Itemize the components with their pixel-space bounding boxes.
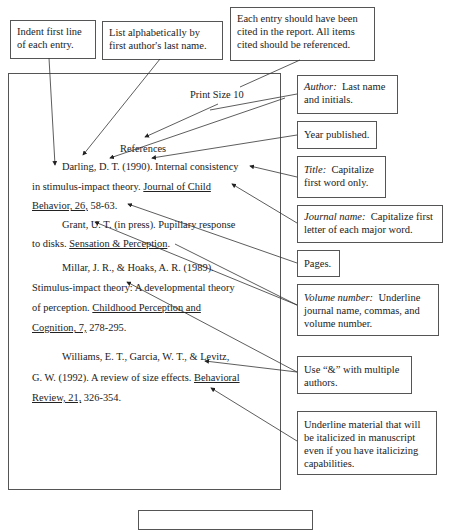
- callout-volume: Volume number: Underline journal name, c…: [297, 284, 439, 336]
- ref-line-12: Review, 21, 326-354.: [32, 392, 121, 404]
- callout-pages-text: Pages.: [304, 258, 331, 269]
- references-heading: References: [120, 143, 166, 155]
- callout-journal-label: Journal name:: [304, 211, 366, 222]
- ref-line-4: Grant, U. T. (in press). Pupillary respo…: [62, 219, 235, 231]
- ref-line-2: in stimulus-impact theory. Journal of Ch…: [32, 181, 211, 193]
- journal-volume: Cognition, 7,: [32, 322, 87, 333]
- ref-line-9: Cognition, 7, 278-295.: [32, 322, 126, 334]
- callout-cited: Each entry should have been cited in the…: [230, 7, 375, 61]
- callout-year: Year published.: [297, 121, 377, 149]
- journal-volume: Behavior, 26,: [32, 200, 88, 211]
- print-size-label: Print Size 10: [190, 89, 244, 101]
- ref-line-1: Darling, D. T. (1990). Internal consiste…: [62, 161, 239, 173]
- callout-indent-text: Indent first line of each entry.: [17, 26, 82, 50]
- ref-line-7: Stimulus-impact theory: A developmental …: [32, 282, 235, 294]
- journal-title: Journal of Child: [143, 181, 211, 192]
- callout-title: Title: Capitalize first word only.: [297, 156, 386, 198]
- callout-pages: Pages.: [297, 250, 340, 277]
- callout-author-label: Author:: [304, 81, 337, 92]
- bottom-empty-box: [138, 510, 313, 530]
- callout-ampersand-text: Use “&” with multiple authors.: [304, 364, 399, 388]
- callout-title-label: Title:: [304, 164, 326, 175]
- journal-title: Behavioral: [194, 372, 240, 383]
- journal-volume: Review, 21,: [32, 392, 81, 403]
- ref-line-10: Williams, E. T., Garcia, W. T., & Levitz…: [62, 351, 229, 363]
- callout-ampersand: Use “&” with multiple authors.: [297, 356, 412, 394]
- callout-underline-text: Underline material that will be italiciz…: [304, 419, 420, 469]
- callout-cited-text: Each entry should have been cited in the…: [237, 13, 358, 50]
- ref-line-8: of perception. Childhood Perception and: [32, 302, 201, 314]
- callout-alphabetical-text: List alphabetically by first author's la…: [109, 27, 207, 51]
- journal-title: Childhood Perception and: [92, 302, 201, 313]
- callout-author: Author: Last name and initials.: [297, 75, 398, 114]
- callout-volume-label: Volume number:: [304, 292, 373, 303]
- ref-line-5: to disks. Sensation & Perception.: [32, 238, 170, 250]
- callout-underline: Underline material that will be italiciz…: [297, 411, 437, 475]
- callout-year-text: Year published.: [304, 129, 369, 140]
- journal-title: Sensation & Perception: [69, 238, 167, 249]
- ref-line-3: Behavior, 26, 58-63.: [32, 200, 117, 212]
- callout-alphabetical: List alphabetically by first author's la…: [102, 21, 223, 60]
- ref-line-11: G. W. (1992). A review of size effects. …: [32, 372, 240, 384]
- callout-indent: Indent first line of each entry.: [10, 20, 96, 59]
- callout-journal: Journal name: Capitalize first letter of…: [297, 205, 443, 243]
- ref-line-6: Millar, J. R., & Hoaks, A. R. (1989).: [62, 262, 214, 274]
